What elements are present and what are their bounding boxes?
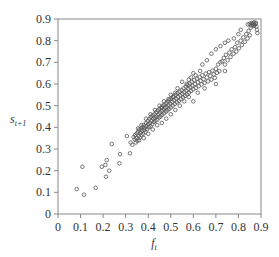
data-point: [239, 39, 243, 43]
data-point: [237, 32, 241, 36]
x-tick-label: 0.2: [96, 220, 111, 234]
data-point: [180, 80, 184, 84]
data-point: [224, 53, 228, 57]
data-point: [155, 123, 159, 127]
y-tick-label: 0.7: [36, 55, 51, 69]
data-point: [228, 51, 232, 55]
data-point: [198, 69, 202, 73]
data-point: [118, 162, 122, 166]
data-point: [105, 158, 109, 162]
data-point: [142, 136, 146, 140]
data-point: [203, 87, 207, 91]
data-point: [151, 128, 155, 132]
data-point: [100, 165, 104, 169]
data-point: [219, 44, 223, 48]
x-tick-label: 0.3: [118, 220, 133, 234]
x-tick-label: 0.7: [208, 220, 223, 234]
data-point: [236, 41, 240, 45]
y-tick-label: 0.5: [36, 99, 51, 113]
x-axis-label-sub: t: [155, 243, 158, 252]
x-tick-label: 0.6: [186, 220, 201, 234]
x-tick-label: 0.4: [141, 220, 156, 234]
data-point: [227, 39, 231, 43]
data-point: [214, 67, 218, 71]
data-point: [178, 104, 182, 108]
data-point: [223, 41, 227, 45]
x-tick-label: 0.5: [163, 220, 178, 234]
data-point: [125, 134, 129, 138]
y-tick-label: 0.4: [36, 120, 51, 134]
data-point: [187, 95, 191, 99]
data-point: [233, 45, 237, 49]
x-tick-label: 0.8: [231, 220, 246, 234]
data-point: [211, 69, 215, 73]
x-axis-label: ft: [151, 236, 157, 252]
data-point: [234, 50, 238, 54]
data-point: [104, 163, 108, 167]
data-point: [183, 100, 187, 104]
y-axis-label-sub: t+1: [15, 119, 27, 128]
data-point: [82, 193, 86, 197]
data-point: [169, 113, 173, 117]
data-point: [110, 142, 114, 146]
data-point: [192, 100, 196, 104]
x-axis-ticks: 00.10.20.30.40.50.60.70.80.9: [55, 214, 269, 234]
data-point: [189, 76, 193, 80]
data-point: [194, 74, 198, 78]
data-point: [104, 175, 108, 179]
y-tick-label: 0: [45, 207, 51, 221]
data-point: [118, 152, 122, 156]
data-point: [223, 69, 227, 73]
data-point: [176, 87, 180, 91]
y-tick-label: 0.1: [36, 185, 51, 199]
data-points: [75, 21, 259, 197]
data-point: [214, 82, 218, 86]
data-point: [160, 121, 164, 125]
data-point: [230, 48, 234, 52]
data-point: [223, 63, 227, 67]
data-point: [240, 43, 244, 47]
data-point: [128, 152, 132, 156]
y-tick-label: 0.9: [36, 12, 51, 26]
data-point: [196, 91, 200, 95]
data-point: [226, 58, 230, 62]
data-point: [239, 28, 243, 32]
y-tick-label: 0.3: [36, 142, 51, 156]
y-axis-ticks: 00.10.20.30.40.50.60.70.80.9: [36, 12, 58, 221]
y-tick-label: 0.6: [36, 77, 51, 91]
data-point: [94, 186, 98, 190]
data-point: [210, 78, 214, 82]
x-tick-label: 0.1: [73, 220, 88, 234]
data-point: [201, 63, 205, 67]
y-tick-label: 0.2: [36, 164, 51, 178]
data-point: [248, 34, 252, 38]
y-axis-label: st+1: [10, 112, 26, 128]
data-point: [213, 76, 217, 80]
y-tick-label: 0.8: [36, 34, 51, 48]
data-point: [81, 165, 85, 169]
x-tick-label: 0.9: [254, 220, 269, 234]
data-point: [229, 55, 233, 59]
data-point: [237, 47, 241, 51]
data-point: [146, 132, 150, 136]
data-point: [242, 36, 246, 40]
data-point: [232, 37, 236, 41]
x-tick-label: 0: [55, 220, 61, 234]
data-point: [214, 48, 218, 52]
data-point: [205, 58, 209, 62]
data-point: [192, 71, 196, 75]
data-point: [107, 169, 111, 173]
data-point: [165, 117, 169, 121]
data-point: [75, 187, 79, 191]
scatter-chart: 00.10.20.30.40.50.60.70.80.9 00.10.20.30…: [0, 0, 279, 257]
data-point: [174, 108, 178, 112]
data-point: [243, 40, 247, 44]
data-point: [210, 52, 214, 56]
